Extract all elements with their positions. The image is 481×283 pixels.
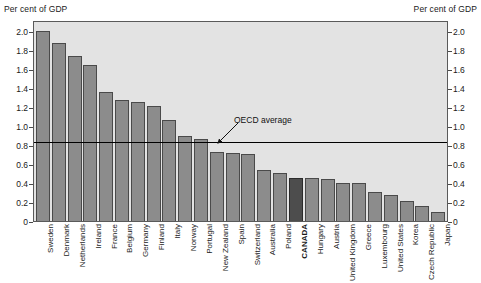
chart-figure: Per cent of GDP Per cent of GDP 00.20.40… bbox=[0, 0, 481, 283]
x-label-slot: Hungary bbox=[304, 223, 320, 283]
x-axis-label-sweden: Sweden bbox=[46, 195, 55, 224]
y-tick-label-right-0.4: 0.4 bbox=[453, 180, 465, 189]
y-tick-label-right-1.4: 1.4 bbox=[453, 85, 465, 94]
x-label-slot: Korea bbox=[399, 223, 415, 283]
y-tick-label-right-2.0: 2.0 bbox=[453, 28, 465, 37]
y-tick-mark-right bbox=[448, 127, 452, 128]
x-label-slot: CANADA bbox=[288, 223, 304, 283]
x-label-slot: Germany bbox=[129, 223, 145, 283]
x-axis-label-japan: Japan bbox=[443, 202, 452, 224]
x-axis-label-new-zealand: New Zealand bbox=[221, 177, 230, 224]
x-label-slot: Portugal bbox=[193, 223, 209, 283]
y-tick-label-left-1.6: 1.6 bbox=[16, 66, 28, 75]
x-label-slot: Switzerland bbox=[241, 223, 257, 283]
x-axis-label-italy: Italy bbox=[173, 209, 182, 224]
y-axis-right-labels: 00.20.40.60.81.01.21.41.61.82.0 bbox=[453, 21, 481, 222]
x-label-slot: Italy bbox=[161, 223, 177, 283]
x-label-slot: Japan bbox=[431, 223, 447, 283]
x-axis-label-canada: CANADA bbox=[300, 189, 309, 224]
x-axis-label-finland: Finland bbox=[157, 198, 166, 224]
x-label-slot: Finland bbox=[145, 223, 161, 283]
x-label-slot: Poland bbox=[272, 223, 288, 283]
y-tick-mark-right bbox=[448, 51, 452, 52]
y-axis-left-labels: 00.20.40.60.81.01.21.41.61.82.0 bbox=[0, 21, 28, 222]
y-tick-label-right-1.0: 1.0 bbox=[453, 123, 465, 132]
x-axis-label-switzerland: Switzerland bbox=[253, 183, 262, 224]
x-axis-label-ireland: Ireland bbox=[94, 200, 103, 224]
x-label-slot: Czech Republic bbox=[415, 223, 431, 283]
x-label-slot: Luxembourg bbox=[368, 223, 384, 283]
y-axis-right-ticks bbox=[448, 21, 452, 222]
x-label-slot: Ireland bbox=[82, 223, 98, 283]
x-axis-label-text: Japan bbox=[443, 224, 452, 246]
x-axis-category-labels: SwedenDenmarkNetherlandsIrelandFranceBel… bbox=[33, 223, 448, 283]
x-label-slot: Denmark bbox=[50, 223, 66, 283]
y-tick-label-left-0.4: 0.4 bbox=[16, 180, 28, 189]
x-axis-label-denmark: Denmark bbox=[62, 192, 71, 224]
y-tick-label-right-0.2: 0.2 bbox=[453, 199, 465, 208]
y-tick-mark-right bbox=[448, 184, 452, 185]
y-tick-label-right-1.6: 1.6 bbox=[453, 66, 465, 75]
y-tick-label-left-0.8: 0.8 bbox=[16, 142, 28, 151]
x-axis-label-portugal: Portugal bbox=[205, 194, 214, 224]
x-label-slot: United Kingdom bbox=[336, 223, 352, 283]
x-axis-label-czech-republic: Czech Republic bbox=[427, 168, 436, 224]
y-tick-mark-right bbox=[448, 89, 452, 90]
x-axis-label-luxembourg: Luxembourg bbox=[380, 180, 389, 224]
x-label-slot: Norway bbox=[177, 223, 193, 283]
x-axis-label-france: France bbox=[110, 199, 119, 224]
y-tick-label-right-1.2: 1.2 bbox=[453, 104, 465, 113]
x-axis-label-spain: Spain bbox=[237, 204, 246, 224]
y-tick-mark-right bbox=[448, 32, 452, 33]
y-tick-label-left-1.2: 1.2 bbox=[16, 104, 28, 113]
y-tick-label-left-1.8: 1.8 bbox=[16, 47, 28, 56]
y-tick-mark-right bbox=[448, 165, 452, 166]
x-axis-label-greece: Greece bbox=[364, 198, 373, 224]
y-tick-label-right-0.8: 0.8 bbox=[453, 142, 465, 151]
x-label-slot: France bbox=[98, 223, 114, 283]
y-tick-label-right-0.6: 0.6 bbox=[453, 161, 465, 170]
y-tick-label-left-2.0: 2.0 bbox=[16, 28, 28, 37]
oecd-average-arrow-icon bbox=[212, 121, 252, 151]
left-axis-unit-caption: Per cent of GDP bbox=[4, 4, 67, 14]
x-axis-label-netherlands: Netherlands bbox=[78, 181, 87, 224]
x-label-slot: Sweden bbox=[34, 223, 50, 283]
y-tick-mark-right bbox=[448, 70, 452, 71]
right-axis-unit-caption: Per cent of GDP bbox=[414, 4, 477, 14]
x-axis-label-korea: Korea bbox=[411, 203, 420, 224]
x-label-slot: Greece bbox=[352, 223, 368, 283]
y-tick-label-left-0.6: 0.6 bbox=[16, 161, 28, 170]
x-label-slot: Spain bbox=[225, 223, 241, 283]
x-axis-label-austria: Austria bbox=[332, 199, 341, 224]
x-label-slot: Austria bbox=[320, 223, 336, 283]
y-tick-label-left-1.0: 1.0 bbox=[16, 123, 28, 132]
bar-sweden bbox=[36, 31, 50, 221]
x-axis-label-norway: Norway bbox=[189, 197, 198, 224]
y-tick-label-left-0.2: 0.2 bbox=[16, 199, 28, 208]
x-label-slot: Belgium bbox=[113, 223, 129, 283]
x-axis-label-united-states: United States bbox=[396, 176, 405, 224]
y-tick-label-left-0: 0 bbox=[23, 218, 28, 227]
x-axis-label-hungary: Hungary bbox=[316, 194, 325, 224]
y-tick-mark-right bbox=[448, 146, 452, 147]
y-tick-label-left-1.4: 1.4 bbox=[16, 85, 28, 94]
y-tick-label-right-1.8: 1.8 bbox=[453, 47, 465, 56]
y-tick-label-right-0: 0 bbox=[453, 218, 458, 227]
x-axis-label-germany: Germany bbox=[141, 191, 150, 224]
x-label-slot: Australia bbox=[256, 223, 272, 283]
x-label-slot: United States bbox=[384, 223, 400, 283]
x-axis-label-poland: Poland bbox=[284, 199, 293, 224]
x-axis-label-belgium: Belgium bbox=[125, 195, 134, 224]
x-axis-label-australia: Australia bbox=[268, 193, 277, 224]
x-axis-label-united-kingdom: United Kingdom bbox=[348, 167, 357, 224]
x-label-slot: Netherlands bbox=[66, 223, 82, 283]
x-label-slot: New Zealand bbox=[209, 223, 225, 283]
y-tick-mark-right bbox=[448, 108, 452, 109]
